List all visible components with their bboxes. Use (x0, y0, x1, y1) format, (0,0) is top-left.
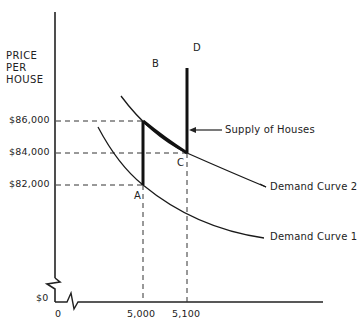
x-tick-5100: 5,100 (172, 308, 200, 319)
point-label-b: B (152, 58, 159, 69)
y-axis-title-line: HOUSE (6, 74, 43, 86)
guide-lines (56, 121, 187, 302)
x-tick-0: 0 (55, 308, 61, 319)
y-tick-86000: $86,000 (9, 114, 50, 125)
x-axis (55, 293, 323, 309)
y-axis-title: PRICE PER HOUSE (6, 50, 43, 86)
demand-curve-1-label: Demand Curve 1 (270, 231, 357, 242)
point-label-d: D (193, 42, 201, 53)
point-label-c: C (177, 157, 184, 168)
y-tick-82000: $82,000 (9, 178, 50, 189)
supply-label: Supply of Houses (225, 124, 315, 135)
demand-curve-2-label: Demand Curve 2 (270, 181, 357, 192)
demand-curve-1 (98, 127, 264, 238)
y-axis-title-line: PRICE (6, 50, 43, 62)
supply-arrow-icon (189, 127, 222, 133)
y-axis (47, 12, 60, 302)
point-label-a: A (134, 190, 141, 201)
y-tick-84000: $84,000 (9, 146, 50, 157)
y-axis-title-line: PER (6, 62, 43, 74)
y-tick-0: $0 (36, 292, 49, 303)
x-tick-5000: 5,000 (127, 308, 155, 319)
